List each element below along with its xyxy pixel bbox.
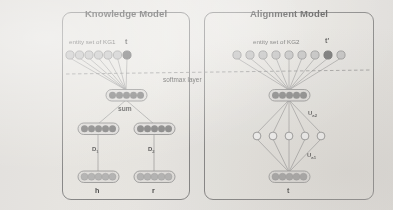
- entity-set-kg2: [233, 51, 345, 59]
- hidden-layer-alignment: [253, 132, 325, 140]
- pill-input-t: [269, 171, 310, 183]
- figure-canvas: Knowledge Model Alignment Model entity s…: [0, 0, 393, 210]
- node-layer: [0, 0, 393, 210]
- pill-input-h: [78, 171, 119, 183]
- pill-input-r: [134, 171, 175, 183]
- entity-set-kg1: [66, 51, 131, 59]
- pill-softmax-output-left: [106, 90, 147, 102]
- pill-hidden-r: [134, 123, 175, 135]
- pill-softmax-output-right: [269, 90, 310, 102]
- target-entity-node-t: [123, 51, 131, 59]
- pill-hidden-h: [78, 123, 119, 135]
- target-entity-node-t-prime: [324, 51, 332, 59]
